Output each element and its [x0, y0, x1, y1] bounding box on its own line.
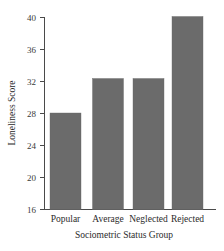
bar-rejected	[172, 17, 203, 210]
bar-average	[93, 79, 124, 210]
y-tick-label-20: 20	[27, 173, 37, 183]
y-tick-label-28: 28	[27, 109, 37, 119]
bar-chart: 16 20 24 28 32 36 40 Popular Average Neg…	[0, 0, 224, 251]
y-tick-label-32: 32	[27, 77, 36, 87]
x-tick-label-neglected: Neglected	[129, 214, 168, 224]
x-tick-label-rejected: Rejected	[171, 214, 204, 224]
x-axis-title: Sociometric Status Group	[75, 230, 173, 240]
y-tick-label-40: 40	[27, 13, 37, 23]
y-tick-label-24: 24	[27, 141, 37, 151]
bar-neglected	[133, 79, 164, 210]
y-axis-title: Loneliness Score	[7, 80, 17, 145]
x-tick-label-average: Average	[92, 214, 123, 224]
chart-canvas: 16 20 24 28 32 36 40 Popular Average Neg…	[0, 0, 224, 251]
y-tick-label-36: 36	[27, 45, 37, 55]
x-tick-label-popular: Popular	[51, 214, 81, 224]
bar-popular	[50, 113, 81, 210]
y-tick-label-16: 16	[27, 205, 37, 215]
